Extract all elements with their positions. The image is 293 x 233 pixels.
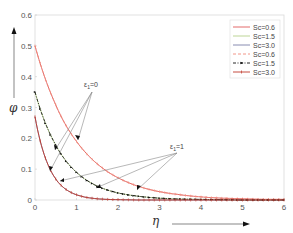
- x-tick-label: 2: [116, 203, 121, 212]
- legend-entry-label: Sc=3.0: [253, 42, 275, 49]
- legend-entry-label: Sc=3.0: [253, 69, 275, 76]
- legend: Sc=0.6Sc=1.5Sc=3.0Sc=0.6Sc=1.5Sc=3.0: [230, 20, 280, 78]
- y-tick-label: 0: [28, 196, 33, 205]
- x-tick-label: 3: [157, 203, 162, 212]
- y-tick-label: 0.3: [21, 104, 33, 113]
- y-axis-label: φ: [9, 101, 18, 115]
- legend-entry-label: Sc=0.6: [253, 24, 275, 31]
- x-arrowhead-icon: [243, 222, 250, 227]
- x-tick-label: 5: [240, 203, 245, 212]
- y-tick-label: 0.1: [21, 165, 33, 174]
- x-tick-label: 0: [33, 203, 38, 212]
- x-axis-label: η: [152, 214, 160, 228]
- y-arrowhead-icon: [12, 27, 17, 34]
- legend-entry-label: Sc=0.6: [253, 51, 275, 58]
- y-tick-label: 0.5: [21, 42, 33, 51]
- x-tick-label: 1: [74, 203, 79, 212]
- y-tick-label: 0.6: [21, 11, 33, 20]
- legend-entry-label: Sc=1.5: [253, 33, 275, 40]
- y-tick-label: 0.2: [21, 134, 33, 143]
- x-tick-label: 4: [199, 203, 204, 212]
- y-tick-label: 0.4: [21, 73, 33, 82]
- x-tick-label: 6: [282, 203, 287, 212]
- concentration-profile-chart: 012345600.10.20.30.40.50.6 ε1=0 ε1=1 Sc=…: [0, 0, 293, 233]
- legend-entry-label: Sc=1.5: [253, 60, 275, 67]
